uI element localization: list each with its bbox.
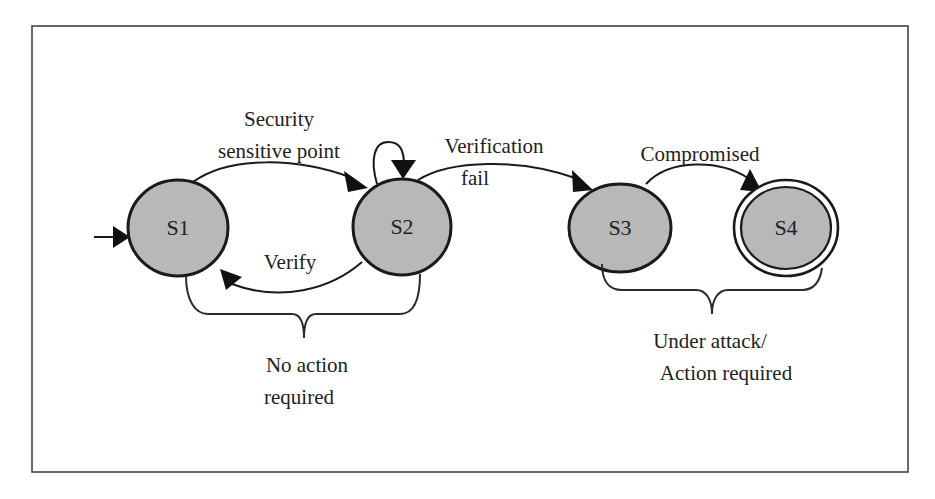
group-brace-under-attack: Under attack/ Action required (602, 264, 822, 385)
state-label: S2 (390, 214, 413, 239)
transition-label-line: fail (461, 166, 489, 190)
state-diagram: Security sensitive point Verify Verifica… (0, 0, 935, 499)
transition-s2-s3: Verification fail (418, 134, 593, 192)
transition-label-line: Security (244, 107, 314, 131)
state-label: S1 (166, 215, 189, 240)
group-label-line: Action required (660, 361, 793, 385)
transition-label: Verify (264, 250, 317, 274)
state-label: S4 (774, 215, 797, 240)
group-brace-no-action: No action required (186, 274, 420, 409)
transition-s2-self-loop (374, 142, 416, 184)
transition-s2-s1: Verify (220, 250, 362, 293)
state-s4-final: S4 (734, 180, 838, 276)
transition-label: Compromised (641, 142, 760, 166)
transition-label-line: sensitive point (218, 139, 340, 163)
state-s1: S1 (128, 180, 228, 276)
arrowhead-icon (344, 171, 368, 192)
state-s3: S3 (569, 184, 671, 272)
arrowhead-icon (572, 170, 593, 192)
state-s2: S2 (353, 179, 451, 275)
transition-s1-s2: Security sensitive point (193, 107, 368, 192)
state-label: S3 (608, 215, 631, 240)
group-label-line: Under attack/ (653, 329, 767, 353)
transition-s3-s4: Compromised (641, 142, 763, 192)
group-label-line: required (264, 385, 334, 409)
initial-state-arrow (94, 226, 130, 248)
group-label-line: No action (266, 353, 349, 377)
transition-label-line: Verification (444, 134, 544, 158)
arrowhead-icon (391, 160, 416, 179)
